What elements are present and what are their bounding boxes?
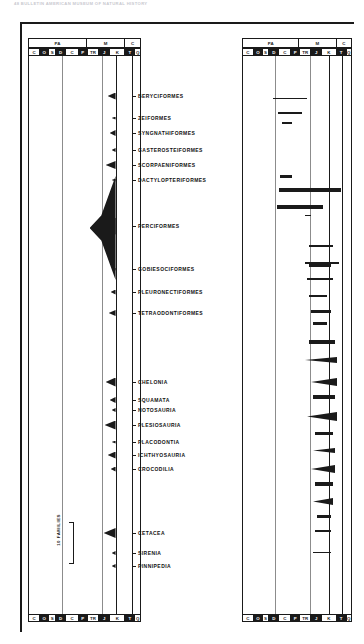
taxon-leader-tick <box>132 455 136 456</box>
taxon-label-placodontia: PLACODONTIA <box>138 439 180 445</box>
period-cell-jurassic: J <box>99 49 110 55</box>
spindle-stem <box>116 264 117 276</box>
period-cell-tertiary: T <box>125 49 135 55</box>
taxon-label-sirenia: SIRENIA <box>138 550 161 556</box>
taxon-label-ichthyosauria: ICHTHYOSAURIA <box>138 452 186 458</box>
period-cell-jurassic: J <box>99 615 110 621</box>
period-cell-jurassic: J <box>311 49 322 55</box>
era-cell-cenozoic: C <box>125 39 140 47</box>
period-cell-ordovician: O <box>254 49 263 55</box>
spindle-chelonia <box>106 378 116 387</box>
taxon-label-perciformes: PERCIFORMES <box>138 223 180 229</box>
period-cell-silurian: S <box>49 615 56 621</box>
spindle-squamata <box>110 397 116 403</box>
period-cell-devonian: D <box>56 49 66 55</box>
taxon-label-notosauria: NOTOSAURIA <box>138 407 176 413</box>
period-cell-permian: P <box>291 615 300 621</box>
range-bar <box>313 322 327 325</box>
range-bar <box>313 552 331 553</box>
taxon-label-zeiformes: ZEIFORMES <box>138 115 171 121</box>
taxon-leader-tick <box>132 150 136 151</box>
spindle-stem <box>116 126 117 141</box>
running-head: 48 BULLETIN AMERICAN MUSEUM OF NATURAL H… <box>14 1 148 6</box>
period-cell-triassic: TR <box>300 615 311 621</box>
era-scale-header-right: PAMC <box>242 38 352 48</box>
taxon-leader-tick <box>132 533 136 534</box>
taxon-label-cetacea: CETACEA <box>138 530 165 536</box>
range-bar <box>315 482 333 486</box>
spindle-placodontia <box>112 441 116 444</box>
taxon-label-chelonia: CHELONIA <box>138 379 168 385</box>
period-cell-quaternary: Q <box>135 49 140 55</box>
period-scale-footer-left: COSDCPTRJKTQ <box>28 614 141 622</box>
period-cell-tertiary: T <box>337 615 347 621</box>
spindle-cetacea <box>104 528 116 538</box>
spindle-stem <box>116 286 117 300</box>
period-cell-devonian: D <box>269 615 279 621</box>
range-bar <box>313 448 335 453</box>
taxon-leader-tick <box>132 442 136 443</box>
range-bar <box>315 530 331 532</box>
range-bar <box>307 278 333 280</box>
spindle-scorpaeniformes <box>106 161 116 169</box>
range-bar <box>315 432 333 435</box>
range-bar <box>309 295 327 297</box>
taxon-leader-tick <box>132 400 136 401</box>
period-cell-quaternary: Q <box>347 615 351 621</box>
time-guide-line <box>310 56 311 614</box>
taxon-leader-tick <box>132 382 136 383</box>
period-cell-cretaceous: K <box>322 49 336 55</box>
spindle-stem <box>116 175 117 187</box>
spindle-stem <box>116 547 117 560</box>
spindle-pleuronectiformes <box>111 290 116 295</box>
taxon-label-tetraodontiformes: TETRAODONTIFORMES <box>138 310 203 316</box>
time-guide-line <box>342 56 343 614</box>
taxon-label-gasterosteiformes: GASTEROSTEIFORMES <box>138 147 203 153</box>
scale-key-bracket <box>69 522 74 564</box>
spindle-stem <box>116 560 117 573</box>
period-cell-carboniferous: C <box>279 615 291 621</box>
range-bar <box>313 395 335 399</box>
taxon-leader-tick <box>132 410 136 411</box>
taxon-label-syngnathiformes: SYNGNATHIFORMES <box>138 130 195 136</box>
taxon-leader-tick <box>132 133 136 134</box>
period-cell-cambrian: C <box>243 615 254 621</box>
spindle-stem <box>116 306 117 321</box>
taxon-leader-tick <box>132 96 136 97</box>
time-guide-line <box>102 56 103 614</box>
taxon-leader-tick <box>132 118 136 119</box>
spindle-plesiosauria <box>105 421 116 430</box>
period-scale-footer-right: COSDCPTRJKTQ <box>242 614 352 622</box>
range-bar <box>278 112 302 114</box>
period-cell-carboniferous: C <box>66 615 78 621</box>
taxon-leader-tick <box>132 566 136 567</box>
period-scale-header-left: COSDCPTRJKTQ <box>28 48 141 56</box>
spindle-stem <box>116 417 117 435</box>
period-cell-devonian: D <box>56 615 66 621</box>
period-cell-tertiary: T <box>125 615 135 621</box>
taxon-label-dactylopteriformes: DACTYLOPTERIFORMES <box>138 177 206 183</box>
spindle-stem <box>116 214 117 240</box>
period-cell-ordovician: O <box>254 615 263 621</box>
scale-key: 10 FAMILIES <box>56 514 82 578</box>
range-bar <box>277 205 323 209</box>
spindle-stem <box>116 404 117 417</box>
scale-key-label: 10 FAMILIES <box>56 514 61 546</box>
taxon-label-pinnipedia: PINNIPEDIA <box>138 563 171 569</box>
period-cell-cretaceous: K <box>110 49 125 55</box>
spindle-tetraodontiformes <box>109 310 116 316</box>
range-bar <box>309 245 333 247</box>
period-cell-cambrian: C <box>29 49 40 55</box>
range-bar <box>279 188 341 192</box>
period-cell-triassic: TR <box>88 615 99 621</box>
era-cell-paleozoic: PA <box>243 39 299 47</box>
period-cell-permian: P <box>79 49 88 55</box>
period-cell-carboniferous: C <box>66 49 78 55</box>
taxon-label-squamata: SQUAMATA <box>138 397 170 403</box>
era-scale-header-left: PAMC <box>28 38 141 48</box>
taxon-leader-tick <box>132 425 136 426</box>
spindle-stem <box>116 463 117 477</box>
period-cell-permian: P <box>79 615 88 621</box>
period-cell-ordovician: O <box>40 49 49 55</box>
spindle-zeiformes <box>112 117 116 120</box>
